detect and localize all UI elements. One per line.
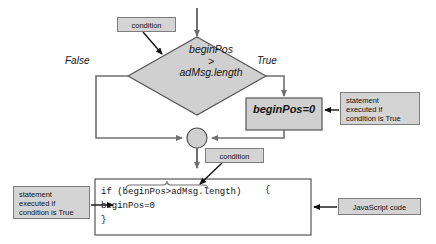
callout-statement-right: statement executed if condition is True bbox=[340, 92, 420, 125]
flowchart-diagram: beginPos > adMsg.length False True begin… bbox=[0, 0, 436, 244]
process-to-merge-connector bbox=[212, 130, 284, 138]
merge-circle bbox=[187, 128, 207, 148]
true-branch-connector bbox=[266, 76, 284, 96]
process-rect bbox=[246, 98, 322, 130]
callout-statement-left: statement executed if condition is True bbox=[13, 186, 90, 219]
decision-diamond bbox=[128, 37, 266, 115]
callout-condition-top: condition bbox=[117, 17, 176, 32]
code-box bbox=[95, 179, 311, 235]
condition-top-leader bbox=[143, 32, 162, 54]
callout-condition-mid: condition bbox=[205, 148, 264, 163]
callout-javascript-code: JavaScript code bbox=[338, 198, 421, 215]
code-open-brace: { bbox=[265, 185, 270, 195]
